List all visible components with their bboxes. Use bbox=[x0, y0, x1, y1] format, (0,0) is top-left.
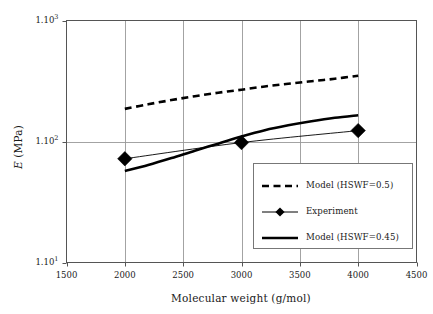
x-tick-label: 3500 bbox=[277, 270, 323, 280]
y-axis-symbol: E bbox=[12, 161, 24, 169]
y-tick-exponent: 2 bbox=[54, 134, 58, 142]
x-tick-label: 3000 bbox=[219, 270, 265, 280]
figure: E (MPa) Molecular weight (g/mol) 1.1011.… bbox=[0, 0, 433, 314]
y-tick-mantissa: 1.10 bbox=[35, 15, 54, 25]
chart-canvas bbox=[0, 0, 433, 314]
x-tick-label: 2000 bbox=[102, 270, 148, 280]
legend-label-0: Model (HSWF=0.5) bbox=[306, 180, 393, 190]
series-line-0 bbox=[125, 76, 358, 109]
y-tick-mantissa: 1.10 bbox=[35, 136, 54, 146]
y-tick-exponent: 3 bbox=[54, 13, 58, 21]
y-tick-label: 1.103 bbox=[17, 15, 59, 25]
y-tick-mantissa: 1.10 bbox=[35, 257, 54, 267]
x-tick-label: 4000 bbox=[335, 270, 381, 280]
legend-label-1: Experiment bbox=[306, 206, 358, 216]
data-point-marker bbox=[351, 123, 365, 137]
x-axis-label: Molecular weight (g/mol) bbox=[66, 292, 416, 304]
x-tick-label: 1500 bbox=[44, 270, 90, 280]
y-tick-label: 1.102 bbox=[17, 136, 59, 146]
y-tick-exponent: 1 bbox=[54, 255, 58, 263]
y-axis-label: E (MPa) bbox=[12, 107, 24, 187]
series-layer bbox=[118, 76, 366, 171]
x-tick-label: 4500 bbox=[394, 270, 433, 280]
x-tick-label: 2500 bbox=[160, 270, 206, 280]
legend-label-2: Model (HSWF=0.45) bbox=[306, 232, 399, 242]
y-tick-label: 1.101 bbox=[17, 257, 59, 267]
data-point-marker bbox=[118, 152, 132, 166]
